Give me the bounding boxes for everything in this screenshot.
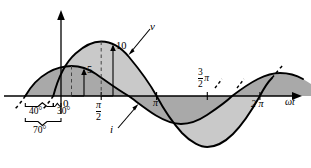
x-tick-label-pi: π xyxy=(153,98,158,108)
three-halves-pi-symbol: π xyxy=(204,74,209,84)
i-curve-dashed-left xyxy=(14,96,25,110)
three-halves-denominator: 2 xyxy=(198,80,203,90)
amplitude-label-5: 5 xyxy=(87,65,92,76)
v-curve-dashed-left xyxy=(42,96,53,110)
i-label-leader-line xyxy=(118,107,136,128)
x-tick-label-half-pi: π 2 xyxy=(96,100,101,122)
angle-label-70: 70° xyxy=(33,126,46,136)
crossing-dash-mark-1 xyxy=(215,79,222,88)
three-halves-numerator: 3 xyxy=(198,68,203,78)
x-tick-label-two-pi: 2 π xyxy=(251,99,264,109)
x-axis-label: ωt xyxy=(285,97,295,107)
angle-70-bracket xyxy=(25,118,61,122)
curve-label-v: v xyxy=(150,21,155,32)
half-pi-numerator: π xyxy=(96,100,101,110)
amplitude-label-10: 10 xyxy=(116,41,127,52)
half-pi-denominator: 2 xyxy=(96,112,101,122)
two-pi-text: 2 π xyxy=(251,98,264,109)
v-label-leader-line xyxy=(131,29,150,52)
y-axis-arrowhead xyxy=(57,10,65,20)
x-tick-label-three-halves-pi: 3 2 π xyxy=(198,68,209,89)
crossing-dash-mark-2 xyxy=(237,79,244,88)
curve-label-i: i xyxy=(110,124,113,135)
angle-label-40: 40° xyxy=(29,107,42,117)
waveform-plot xyxy=(0,0,311,168)
angle-label-30: 30° xyxy=(57,107,70,117)
waveform-figure: 0 ωt π 2 π 3 2 π 2 π v i 5 10 40° 30° 70… xyxy=(0,0,311,168)
